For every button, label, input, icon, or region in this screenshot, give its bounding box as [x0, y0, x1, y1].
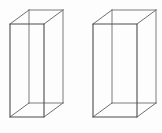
right-prism-depth-edge-bottom-right	[137, 103, 156, 117]
left-prism-depth-edge-bottom-left	[10, 103, 29, 117]
prisms-diagram	[0, 0, 162, 133]
figure-canvas	[0, 0, 162, 133]
left-prism-depth-edge-top-right	[44, 10, 63, 24]
left-prism	[10, 10, 63, 117]
left-prism-depth-edge-top-left	[10, 10, 29, 24]
right-prism-depth-edge-top-right	[137, 10, 156, 24]
left-prism-depth-edge-bottom-right	[44, 103, 63, 117]
right-prism-depth-edge-top-left	[93, 10, 112, 24]
right-prism-depth-edge-bottom-left	[93, 103, 112, 117]
right-prism	[93, 10, 156, 117]
